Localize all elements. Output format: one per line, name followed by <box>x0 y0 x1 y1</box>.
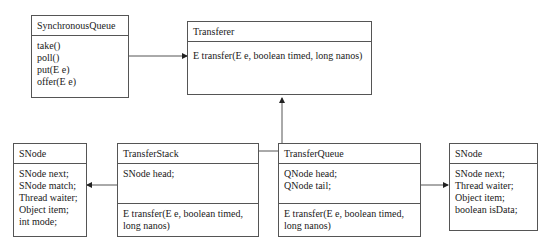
method: E transfer(E e, boolean timed, <box>123 208 253 220</box>
fields-section: QNode head; QNode tail; <box>279 164 420 203</box>
method: take() <box>37 40 123 52</box>
method: poll() <box>37 52 123 64</box>
class-name: Transferer <box>188 22 371 42</box>
field: SNode head; <box>123 168 253 180</box>
method: long nanos) <box>284 220 415 232</box>
class-name: TransferQueue <box>279 144 420 164</box>
class-snode-left: SNode SNode next; SNode match; Thread wa… <box>13 143 87 237</box>
methods-section: E transfer(E e, boolean timed, long nano… <box>188 42 371 66</box>
field: Object item; <box>455 192 532 204</box>
field: SNode next; <box>455 168 532 180</box>
class-name: TransferStack <box>118 144 258 164</box>
field: Object item; <box>19 204 81 216</box>
field: int mode; <box>19 216 81 228</box>
class-snode-right: SNode SNode next; Thread waiter; Object … <box>449 143 538 231</box>
class-transfer-stack: TransferStack SNode head; E transfer(E e… <box>117 143 259 237</box>
fields-section: SNode next; Thread waiter; Object item; … <box>450 164 537 220</box>
fields-section: SNode next; SNode match; Thread waiter; … <box>14 164 86 232</box>
method: offer(E e) <box>37 76 123 88</box>
field: Thread waiter; <box>19 192 81 204</box>
methods-section: E transfer(E e, boolean timed, long nano… <box>279 203 420 236</box>
field: QNode head; <box>284 168 415 180</box>
field: Thread waiter; <box>455 180 532 192</box>
class-name: SNode <box>14 144 86 164</box>
methods-section: E transfer(E e, boolean timed, long nano… <box>118 203 258 236</box>
class-name: SNode <box>450 144 537 164</box>
method: long nanos) <box>123 220 253 232</box>
field: boolean isData; <box>455 204 532 216</box>
fields-section: SNode head; <box>118 164 258 203</box>
field: SNode next; <box>19 168 81 180</box>
method: E transfer(E e, boolean timed, long nano… <box>193 50 366 62</box>
class-transferer: Transferer E transfer(E e, boolean timed… <box>187 21 372 95</box>
class-name: SynchronousQueue <box>32 16 128 36</box>
field: QNode tail; <box>284 180 415 192</box>
method: put(E e) <box>37 64 123 76</box>
class-transfer-queue: TransferQueue QNode head; QNode tail; E … <box>278 143 421 237</box>
methods-section: take() poll() put(E e) offer(E e) <box>32 36 128 92</box>
method: E transfer(E e, boolean timed, <box>284 208 415 220</box>
class-synchronous-queue: SynchronousQueue take() poll() put(E e) … <box>31 15 129 98</box>
field: SNode match; <box>19 180 81 192</box>
